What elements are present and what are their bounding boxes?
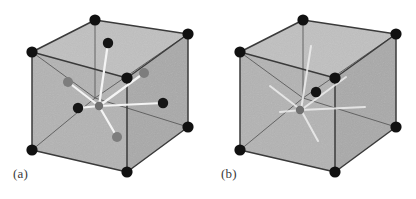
atom-ligand-back-left [63, 77, 73, 87]
corner-atom-top-back-right [390, 28, 401, 39]
unit-cell-diagram-a [0, 0, 208, 199]
atom-ligand-front-left [73, 103, 83, 113]
panel-a-label: (a) [13, 167, 28, 180]
atom-central [95, 102, 103, 110]
atom-ligand-front-right [158, 98, 168, 108]
corner-atom-bottom-front [329, 166, 340, 177]
panel-a: (a) [0, 0, 208, 199]
atom-central [296, 106, 304, 114]
corner-atom-bottom-back-left [26, 144, 37, 155]
corner-atom-top-front-right [121, 72, 132, 83]
atom-ligand [311, 87, 321, 97]
corner-atom-top-back-left [234, 46, 245, 57]
panel-b-label: (b) [221, 167, 237, 180]
corner-atom-bottom-front [121, 166, 132, 177]
atom-ligand-down [112, 132, 122, 142]
figure-root: (a) [0, 0, 416, 199]
corner-atom-top-back-top [89, 14, 100, 25]
unit-cell-diagram-b [208, 0, 416, 199]
corner-atom-top-back-right [182, 28, 193, 39]
corner-atom-top-front-right [329, 72, 340, 83]
atom-ligand-up [103, 38, 113, 48]
corner-atom-bottom-right [182, 121, 193, 132]
corner-atom-top-back-top [297, 14, 308, 25]
corner-atom-bottom-back-left [234, 144, 245, 155]
corner-atom-bottom-right [390, 121, 401, 132]
corner-atom-top-back-left [26, 46, 37, 57]
atom-ligand-back-right [139, 68, 149, 78]
panel-b: (b) [208, 0, 416, 199]
